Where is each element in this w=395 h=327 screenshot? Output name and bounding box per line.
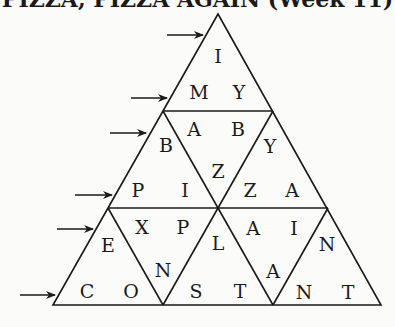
puzzle-letter: C xyxy=(80,280,95,302)
puzzle-letter: Z xyxy=(243,179,256,201)
puzzle-letter: N xyxy=(296,281,313,303)
puzzle-letter: X xyxy=(135,216,149,238)
puzzle-letter: S xyxy=(189,280,202,302)
puzzle-letters: IMYABBYZPIZAXPAIELNNACOSTNT xyxy=(80,45,355,303)
puzzle-letter: B xyxy=(159,134,173,156)
triangle-puzzle: IMYABBYZPIZAXPAIELNNACOSTNT xyxy=(0,0,395,327)
puzzle-letter: I xyxy=(290,217,298,239)
puzzle-letter: B xyxy=(231,118,245,140)
puzzle-letter: N xyxy=(319,233,336,255)
puzzle-letter: A xyxy=(245,217,260,239)
puzzle-letter: E xyxy=(101,234,115,256)
puzzle-letter: Z xyxy=(211,160,224,182)
puzzle-letter: M xyxy=(189,81,208,103)
puzzle-letter: L xyxy=(212,232,225,254)
puzzle-letter: A xyxy=(186,118,201,140)
puzzle-letter: T xyxy=(234,280,247,302)
puzzle-letter: P xyxy=(132,179,145,201)
puzzle-letter: I xyxy=(214,45,222,67)
puzzle-letter: A xyxy=(284,179,299,201)
puzzle-letter: Y xyxy=(263,135,277,157)
row-arrows xyxy=(20,35,203,295)
puzzle-letter: Y xyxy=(232,81,246,103)
puzzle-letter: T xyxy=(342,281,355,303)
puzzle-letter: A xyxy=(265,260,280,282)
puzzle-letter: O xyxy=(123,280,139,302)
puzzle-letter: I xyxy=(181,179,189,201)
puzzle-letter: P xyxy=(177,216,190,238)
puzzle-letter: N xyxy=(155,259,172,281)
